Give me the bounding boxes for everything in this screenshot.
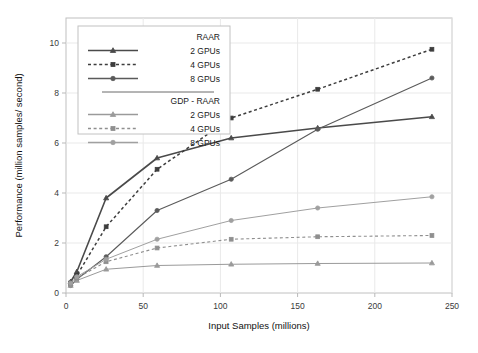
x-tick-label-250: 250	[445, 301, 459, 311]
legend-label-1-1: 4 GPUs	[190, 124, 220, 134]
series-5-point-3	[155, 237, 159, 241]
legend-label-1-2: 8 GPUs	[190, 138, 220, 148]
series-5-point-5	[316, 206, 320, 210]
y-tick-label-10: 10	[50, 38, 60, 48]
series-4-point-3	[155, 246, 159, 250]
series-4-point-5	[316, 235, 320, 239]
y-tick-label-8: 8	[54, 88, 59, 98]
series-1-point-5	[316, 87, 320, 91]
series-2-point-3	[155, 208, 159, 212]
series-2-point-5	[316, 127, 320, 131]
chart-container: 0246810050100150200250Input Samples (mil…	[0, 0, 478, 353]
x-tick-label-0: 0	[64, 301, 69, 311]
y-axis-title: Performance (million samples/ second)	[13, 73, 24, 237]
legend-label-1-0: 2 GPUs	[190, 110, 220, 120]
series-5-point-1	[75, 275, 79, 279]
legend-group-title-1: GDP - RAAR	[171, 96, 220, 106]
y-tick-label-6: 6	[54, 138, 59, 148]
line-chart: 0246810050100150200250Input Samples (mil…	[0, 0, 478, 353]
legend-marker-circle-icon	[111, 140, 115, 144]
y-tick-label-4: 4	[54, 188, 59, 198]
y-tick-label-0: 0	[54, 288, 59, 298]
series-5-point-6	[430, 195, 434, 199]
x-tick-label-100: 100	[213, 301, 227, 311]
series-5-point-4	[229, 218, 233, 222]
y-tick-label-2: 2	[54, 238, 59, 248]
series-1-point-3	[155, 167, 159, 171]
legend-label-0-2: 8 GPUs	[190, 74, 220, 84]
series-5-point-0	[69, 281, 73, 285]
x-tick-label-150: 150	[291, 301, 305, 311]
legend-label-0-0: 2 GPUs	[190, 46, 220, 56]
series-2-point-4	[229, 177, 233, 181]
series-1-point-6	[430, 47, 434, 51]
legend-group-title-0: RAAR	[196, 32, 220, 42]
legend-marker-square-icon	[111, 126, 115, 130]
series-4-point-4	[229, 237, 233, 241]
legend-marker-circle-icon	[111, 76, 115, 80]
x-tick-label-50: 50	[138, 301, 148, 311]
series-2-point-6	[430, 76, 434, 80]
x-axis-title: Input Samples (millions)	[208, 320, 309, 331]
series-5-point-2	[104, 257, 108, 261]
x-tick-label-200: 200	[368, 301, 382, 311]
legend-label-0-1: 4 GPUs	[190, 60, 220, 70]
series-1-point-2	[104, 225, 108, 229]
series-4-point-6	[430, 234, 434, 238]
legend-marker-square-icon	[111, 62, 115, 66]
